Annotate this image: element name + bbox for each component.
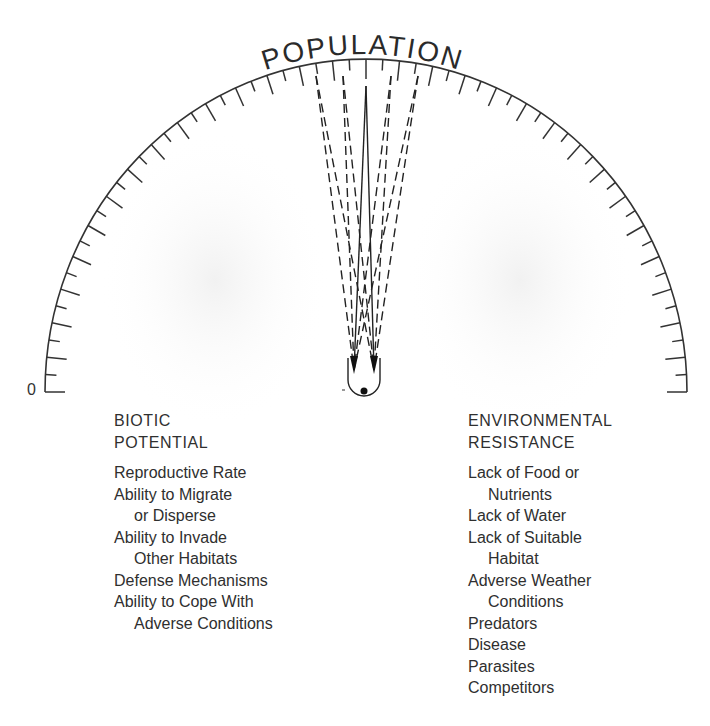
scale-tick (626, 211, 635, 217)
scale-tick (459, 75, 465, 94)
scale-tick (382, 59, 383, 70)
list-item: Disease (468, 634, 612, 656)
list-item: Ability to InvadeOther Habitats (114, 527, 273, 570)
scale-tick (429, 66, 433, 86)
scale-tick (316, 63, 318, 74)
scale-tick (49, 340, 60, 342)
scale-tick (652, 289, 671, 295)
list-item: Lack of SuitableHabitat (468, 527, 612, 570)
scale-tick (299, 66, 303, 86)
scale-tick (61, 289, 80, 295)
scale-tick (52, 323, 72, 327)
scale-tick (164, 133, 171, 142)
list-item: Lack of Food orNutrients (468, 462, 612, 505)
scale-tick (235, 88, 243, 106)
scale-tick (283, 70, 286, 81)
scale-tick (535, 113, 541, 122)
list-item: Ability to Cope WithAdverse Conditions (114, 591, 273, 634)
scale-tick (47, 357, 67, 359)
scale-tick (267, 75, 273, 94)
scale-tick (627, 226, 644, 236)
biotic-potential-heading: BIOTIC POTENTIAL (114, 410, 273, 453)
scale-tick (332, 61, 334, 81)
environmental-resistance-column: ENVIRONMENTAL RESISTANCE Lack of Food or… (468, 410, 612, 699)
scale-tick (191, 113, 197, 122)
scale-tick (665, 306, 676, 309)
scale-tick (349, 59, 350, 70)
scale-tick (220, 95, 225, 105)
list-item: Adverse WeatherConditions (468, 570, 612, 613)
environmental-resistance-heading: ENVIRONMENTAL RESISTANCE (468, 410, 612, 453)
list-item: Predators (468, 613, 612, 635)
list-item: Ability to Migrateor Disperse (114, 484, 273, 527)
pivot-dot-icon (361, 388, 368, 395)
arrowhead-icon (370, 356, 378, 374)
scale-tick (561, 133, 568, 142)
scale-tick (45, 375, 56, 376)
scale-tick (477, 81, 481, 91)
population-gauge: POPULATION (0, 0, 710, 420)
scale-tick (642, 241, 652, 246)
scale-tick (660, 323, 680, 327)
scale-tick (56, 306, 67, 309)
scale-tick (97, 211, 106, 217)
scale-tick (665, 357, 685, 359)
scale-tick (672, 340, 683, 342)
scale-tick (117, 182, 126, 189)
scale-tick (655, 273, 665, 277)
scale-tick (88, 226, 105, 236)
scale-tick (397, 61, 399, 81)
scale-tick (676, 375, 687, 376)
faint-background-shading (100, 130, 635, 420)
scale-tick (251, 81, 255, 91)
scale-tick (414, 63, 416, 74)
biotic-potential-column: BIOTIC POTENTIAL Reproductive RateAbilit… (114, 410, 273, 634)
biotic-potential-list: Reproductive RateAbility to Migrateor Di… (114, 462, 273, 634)
scale-tick (73, 257, 91, 265)
scale-tick (517, 104, 527, 121)
scale-zero-label: 0 (27, 381, 36, 399)
gauge-needle (316, 76, 418, 396)
scale-tick (80, 241, 90, 246)
list-item: Competitors (468, 677, 612, 699)
arrowhead-icon (350, 356, 358, 374)
scale-tick (641, 257, 659, 265)
list-item: Lack of Water (468, 505, 612, 527)
dashed-indicator-line (374, 76, 391, 370)
list-item: Defense Mechanisms (114, 570, 273, 592)
list-item: Reproductive Rate (114, 462, 273, 484)
scale-tick (66, 273, 76, 277)
scale-tick (507, 95, 512, 105)
list-item: Parasites (468, 656, 612, 678)
environmental-resistance-list: Lack of Food orNutrientsLack of WaterLac… (468, 462, 612, 699)
scale-tick (488, 88, 496, 106)
scale-tick (206, 104, 216, 121)
